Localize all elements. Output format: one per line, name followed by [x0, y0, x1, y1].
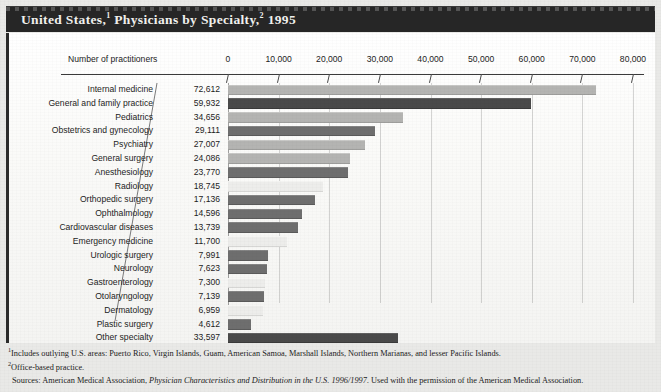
- value-label: 6,959: [174, 305, 220, 315]
- bar: [228, 181, 323, 192]
- value-label: 72,612: [174, 84, 220, 94]
- table-row: Obstetrics and gynecology29,111: [9, 124, 655, 138]
- category-label: General and family practice: [13, 98, 153, 108]
- bar: [228, 195, 315, 206]
- x-tick-label-70000: 70,000: [569, 54, 595, 64]
- category-label: Anesthesiology: [13, 167, 153, 177]
- category-label: Pediatrics: [13, 112, 153, 122]
- category-label: Psychiatry: [13, 139, 153, 149]
- bar: [228, 291, 264, 302]
- x-tick-label-40000: 40,000: [417, 54, 443, 64]
- footnote-1-text: Includes outlying U.S. areas: Puerto Ric…: [11, 349, 501, 358]
- category-label: Otolaryngology: [13, 291, 153, 301]
- value-label: 7,139: [174, 291, 220, 301]
- bar: [228, 153, 350, 164]
- x-tick-mark-50000: [479, 74, 482, 83]
- x-tick-mark-70000: [580, 74, 583, 83]
- title-part-2: Physicians by Specialty,: [111, 12, 260, 27]
- value-label: 13,739: [174, 222, 220, 232]
- bar: [228, 264, 267, 275]
- table-row: Gastroenterology7,300: [9, 276, 655, 290]
- table-row: Ophthalmology14,596: [9, 207, 655, 221]
- bar: [228, 222, 298, 233]
- value-label: 4,612: [174, 319, 220, 329]
- bar: [228, 319, 251, 330]
- bar: [228, 167, 348, 178]
- chart-panel: Number of practitioners 010,00020,00030,…: [6, 33, 655, 343]
- value-label: 27,007: [174, 139, 220, 149]
- value-label: 24,086: [174, 153, 220, 163]
- table-row: Radiology18,745: [9, 180, 655, 194]
- category-label: Cardiovascular diseases: [13, 222, 153, 232]
- value-label: 17,136: [174, 194, 220, 204]
- category-label: Obstetrics and gynecology: [13, 125, 153, 135]
- value-label: 59,932: [174, 98, 220, 108]
- table-row: Emergency medicine11,700: [9, 235, 655, 249]
- table-row: Anesthesiology23,770: [9, 166, 655, 180]
- value-label: 7,623: [174, 263, 220, 273]
- table-row: Neurology7,623: [9, 262, 655, 276]
- bar: [228, 98, 531, 109]
- category-label: Plastic surgery: [13, 319, 153, 329]
- value-label: 7,991: [174, 250, 220, 260]
- value-label: 11,700: [174, 236, 220, 246]
- table-row: Plastic surgery4,612: [9, 318, 655, 332]
- table-row: Psychiatry27,007: [9, 138, 655, 152]
- category-label: Emergency medicine: [13, 236, 153, 246]
- footnote-2: 2Office-based practice.: [8, 360, 656, 374]
- value-label: 33,597: [174, 332, 220, 342]
- x-tick-label-80000: 80,000: [620, 54, 646, 64]
- x-tick-mark-80000: [631, 74, 634, 83]
- category-label: Radiology: [13, 181, 153, 191]
- value-label: 7,300: [174, 277, 220, 287]
- bar: [228, 250, 268, 261]
- bar: [228, 236, 287, 247]
- category-label: Neurology: [13, 263, 153, 273]
- category-label: Ophthalmology: [13, 208, 153, 218]
- value-label: 29,111: [174, 125, 220, 135]
- table-row: Pediatrics34,656: [9, 111, 655, 125]
- value-label: 14,596: [174, 208, 220, 218]
- axis-rule: [61, 74, 644, 75]
- footnote-1: 1Includes outlying U.S. areas: Puerto Ri…: [8, 346, 656, 360]
- x-tick-label-30000: 30,000: [367, 54, 393, 64]
- source-prefix: Sources: American Medical Association,: [12, 376, 149, 385]
- bar: [228, 112, 403, 123]
- bar: [228, 85, 596, 96]
- x-tick-label-50000: 50,000: [468, 54, 494, 64]
- category-label: Gastroenterology: [13, 277, 153, 287]
- bar: [228, 126, 375, 137]
- table-row: Other specialty33,597: [9, 331, 655, 345]
- footnotes: 1Includes outlying U.S. areas: Puerto Ri…: [8, 346, 656, 373]
- x-tick-label-0: 0: [226, 54, 231, 64]
- table-row: General and family practice59,932: [9, 97, 655, 111]
- bar: [228, 333, 398, 344]
- value-label: 34,656: [174, 112, 220, 122]
- bar: [228, 209, 302, 220]
- title-part-3: 1995: [264, 12, 296, 27]
- table-row: Urologic surgery7,991: [9, 249, 655, 263]
- bar-rows: Internal medicine72,612General and famil…: [9, 83, 655, 345]
- x-tick-label-20000: 20,000: [316, 54, 342, 64]
- bar: [228, 140, 365, 151]
- table-row: Cardiovascular diseases13,739: [9, 221, 655, 235]
- title-part-1: United States,: [21, 12, 106, 27]
- table-row: Dermatology6,959: [9, 304, 655, 318]
- table-row: Internal medicine72,612: [9, 83, 655, 97]
- x-tick-mark-0: [226, 74, 229, 83]
- footnote-2-text: Office-based practice.: [11, 362, 84, 371]
- category-label: Orthopedic surgery: [13, 194, 153, 204]
- x-tick-mark-60000: [530, 74, 533, 83]
- poster-page: United States,1 Physicians by Specialty,…: [0, 0, 661, 392]
- value-label: 18,745: [174, 181, 220, 191]
- bar: [228, 305, 263, 316]
- x-tick-label-10000: 10,000: [265, 54, 291, 64]
- x-tick-mark-40000: [428, 74, 431, 83]
- axis-title: Number of practitioners: [68, 54, 157, 64]
- page-title: United States,1 Physicians by Specialty,…: [21, 11, 296, 28]
- title-bar: United States,1 Physicians by Specialty,…: [6, 6, 655, 32]
- x-tick-mark-20000: [327, 74, 330, 83]
- source-suffix: Used with the permission of the American…: [369, 376, 583, 385]
- category-label: General surgery: [13, 153, 153, 163]
- source-line: Sources: American Medical Association, P…: [12, 376, 656, 385]
